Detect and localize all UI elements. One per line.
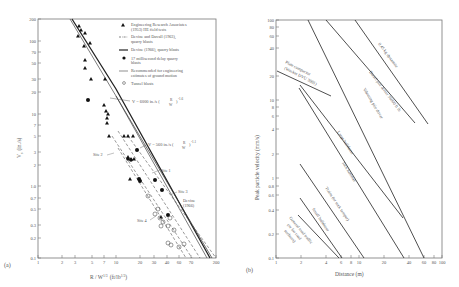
site-2-leader [107,153,114,155]
panel-a-label: (a) [4,262,11,269]
x-tick-label: 20 [382,260,387,265]
x-tick-label: 4 [325,260,328,265]
legend-filled-circle-icon [122,56,125,59]
site-1-line [118,131,200,258]
legend-open-circle-icon [123,82,126,85]
panel-a-y-label: Vs(in./s) [16,137,24,158]
legend-era-2: (1953) HE field tests [131,27,166,32]
panel-a-legend: Engineering Research Associates (1953) H… [119,22,187,86]
x-tick-label: 1 [275,260,277,265]
y-tick-label: 30 [32,77,37,82]
panel-b-axes-frame [276,20,442,258]
site-2-label: Site 2 [93,152,103,157]
panel-b-line-labels: 0.45 kg dynamite Diesel pile driver 3600… [283,42,402,245]
y-tick-label: 8 [272,105,275,110]
y-tick-label: 1.0 [30,184,36,189]
dynamite-line [355,20,428,124]
x-tick-label: 5 [91,260,94,265]
site-4-label: Site 4 [137,218,148,223]
y-tick-label: 0.4 [268,208,274,213]
panel-a-axes-frame [38,19,216,258]
small-bulldozer-label: Small bulldozer [311,207,331,233]
devine-label-2: (1966) [183,203,195,208]
y-tick-label: 70 [32,50,37,55]
x-tick-label: 80 [432,260,437,265]
panel-b-x-ticks: 124681020406080100 [275,255,446,265]
y-tick-label: 0.1 [30,256,36,261]
panel-b-label: (b) [246,267,253,274]
site-4-leader [150,216,156,220]
y-tick-label: 0.2 [268,232,274,237]
site-3-line [128,136,216,258]
panel-a-chart: 200100705030201075321.00.70.50.30.20.1 1… [4,17,220,282]
eq2-numerator: R [183,141,186,145]
y-tick-label: 50 [32,61,37,66]
x-tick-label: 200 [213,260,221,265]
equation-2: V = 560 in./s ( [148,142,174,147]
y-tick-label: 0.5 [30,207,36,212]
y-tick-label: 200 [29,17,37,22]
y-tick-label: 0.6 [268,193,274,198]
y-tick-label: 20 [270,74,275,79]
y-tick-label: 0.7 [30,196,36,201]
panel-b-y-ticks: 1008060402010864210.80.60.40.20.1 [267,18,279,261]
x-tick-label: 40 [165,260,170,265]
y-tick-label: 40 [270,46,275,51]
eq1-exponent: -1.6 [178,97,183,101]
y-tick-label: 0.3 [30,223,36,228]
y-tick-label: 10 [32,112,37,117]
y-tick-label: 100 [29,39,37,44]
eq1-denominator: W [169,103,173,107]
y-tick-label: 0.8 [268,184,274,189]
legend-triangle-icon [121,23,125,27]
x-tick-label: 60 [177,260,182,265]
y-tick-label: 7 [34,123,37,128]
x-tick-label: 30 [152,260,157,265]
small-bulldozer-line [300,198,342,258]
site-3-label: Site 3 [178,189,188,194]
y-tick-label: 1 [272,176,274,181]
x-tick-label: 70 [189,260,194,265]
panel-a-y-ticks: 200100705030201075321.00.70.50.30.20.1 [29,17,41,261]
y-tick-label: 60 [270,34,275,39]
x-tick-label: 1 [37,260,39,265]
y-tick-label: 5 [34,134,37,139]
x-tick-label: 100 [439,260,447,265]
dynamite-label: 0.45 kg dynamite [377,42,399,69]
panel-b-y-label: Peak particle velocity (mm/s) [254,135,261,200]
panel-b-chart: 1008060402010864210.80.60.40.20.1 124681… [246,18,446,279]
y-tick-label: 6 [272,114,275,119]
legend-recommended-2: estimates of ground motion [131,73,178,78]
eq2-denominator: W [182,146,186,150]
y-tick-label: 80 [270,25,275,30]
y-tick-label: 4 [272,127,275,132]
y-tick-label: 20 [32,90,37,95]
equation-1: V = 6000 in./s ( [132,99,160,104]
x-tick-label: 20 [138,260,143,265]
x-tick-label: 60 [422,260,427,265]
x-tick-label: 10 [114,260,119,265]
x-tick-label: 7 [103,260,106,265]
tunnel-blast-points [146,194,186,249]
eq1-leader-line [110,98,130,101]
y-tick-label: 2 [34,163,36,168]
x-tick-label: 6 [340,260,343,265]
legend-delay-2: blasts [131,60,141,65]
y-tick-label: 10 [270,98,275,103]
jack-hammer-label: Jack hammer [341,161,358,183]
site-1-label: Site 1 [161,168,171,173]
trains-label: Trains (or rock tamper) [324,186,351,222]
legend-tunnel: Tunnel blasts [131,81,154,86]
x-tick-label: 3 [74,260,77,265]
y-tick-label: 0.1 [268,256,274,261]
legend-devine-1966: Devine (1966), quarry blasts [131,47,179,53]
x-tick-label: 40 [407,260,412,265]
eq1-numerator: R [170,98,173,102]
large-bulldozer-label: Large bulldozer [336,130,355,156]
x-tick-label: 8 [350,260,353,265]
x-tick-label: 2 [61,260,63,265]
vibrating-label: Vibrating pile driver [362,87,385,120]
y-tick-label: 0.2 [30,236,36,241]
legend-devine-duvall-2: quarry blasts [131,39,153,44]
y-tick-label: 100 [267,18,275,23]
